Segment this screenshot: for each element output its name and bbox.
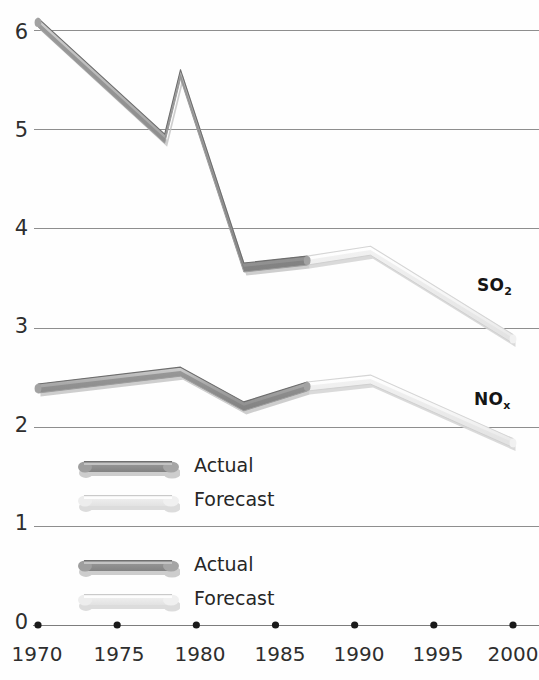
legend-label-nox-forecast: Forecast [194, 588, 274, 609]
legend-swatch-actual [76, 557, 180, 579]
series-label-so2: SO2 [477, 275, 512, 298]
y-tick-3: 3 [2, 316, 28, 337]
y-tick-0: 0 [2, 612, 28, 633]
series-ribbons [35, 18, 517, 451]
legend-swatch-forecast [76, 591, 180, 613]
legend-swatch-forecast [76, 492, 180, 514]
series-label-nox-text: NO [474, 389, 503, 409]
series-label-so2-subscript: 2 [504, 285, 512, 298]
legend-swatch-actual [76, 458, 180, 480]
x-tick-1980: 1980 [160, 644, 240, 664]
series-label-so2-text: SO [477, 275, 504, 295]
series-label-nox-subscript: x [503, 399, 510, 412]
y-tick-6: 6 [2, 22, 28, 43]
series-label-nox: NOx [474, 389, 511, 412]
y-tick-5: 5 [2, 120, 28, 141]
gridlines [34, 31, 539, 527]
x-tick-1985: 1985 [240, 644, 320, 664]
y-tick-2: 2 [2, 415, 28, 436]
x-tick-1970: 1970 [0, 644, 77, 664]
chart-canvas: 6 5 4 3 2 1 0 1970 1975 1980 1985 1990 1… [0, 0, 539, 680]
x-tick-1995: 1995 [398, 644, 478, 664]
x-tick-1990: 1990 [319, 644, 399, 664]
y-tick-4: 4 [2, 218, 28, 239]
legend-label-nox-actual: Actual [194, 554, 254, 575]
legend-label-so2-forecast: Forecast [194, 489, 274, 510]
legend-label-so2-actual: Actual [194, 455, 254, 476]
y-tick-1: 1 [2, 513, 28, 534]
x-tick-1975: 1975 [79, 644, 159, 664]
x-tick-2000: 2000 [473, 644, 539, 664]
